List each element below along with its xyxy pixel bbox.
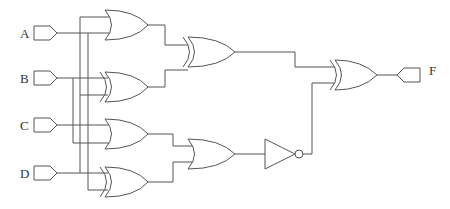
input-pin-c (34, 118, 110, 132)
wire-bus (73, 17, 110, 190)
not-gate (265, 83, 335, 169)
xor-gate-5 (183, 37, 335, 67)
or-gate-6 (188, 139, 265, 169)
logic-circuit-diagram: A B C D F (0, 0, 450, 209)
xor-gate-final (330, 60, 397, 90)
input-label-b: B (20, 72, 29, 85)
input-pin-b (34, 71, 108, 85)
input-pin-d (34, 166, 108, 180)
input-label-a: A (20, 27, 29, 40)
input-pin-a (34, 26, 110, 40)
or-gate-3 (105, 119, 173, 149)
xor-gate-2 (100, 72, 165, 102)
input-label-d: D (20, 167, 29, 180)
output-pin-f (397, 68, 420, 82)
output-label-f: F (429, 64, 436, 77)
xor-gate-4 (100, 167, 173, 197)
or-gate-1 (105, 10, 165, 40)
input-label-c: C (20, 119, 29, 132)
